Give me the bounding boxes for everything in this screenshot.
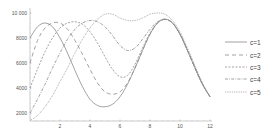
x-tick-label: 2 xyxy=(59,123,62,129)
series-layer xyxy=(30,13,210,121)
series-line-c3 xyxy=(30,19,210,97)
y-tick-label: 8000 xyxy=(16,35,27,41)
x-tick-label: 8 xyxy=(149,123,152,129)
y-ticks: 200040006000800010 000 xyxy=(12,10,32,118)
legend-item-c4: c=4 xyxy=(225,76,261,83)
legend-item-c1: c=1 xyxy=(225,39,261,46)
y-tick-label: 2000 xyxy=(16,110,27,116)
series-line-c5 xyxy=(30,13,210,121)
legend-label: c=1 xyxy=(250,39,261,46)
legend-item-c3: c=3 xyxy=(225,64,261,71)
y-tick-label: 10 000 xyxy=(12,10,28,16)
axes: 24681012 200040006000800010 000 xyxy=(12,8,213,129)
y-tick-label: 6000 xyxy=(16,60,27,66)
x-tick-label: 4 xyxy=(89,123,92,129)
x-tick-label: 12 xyxy=(207,123,213,129)
legend-item-c2: c=2 xyxy=(225,52,261,59)
legend-label: c=3 xyxy=(250,64,261,71)
legend-item-c5: c=5 xyxy=(225,89,261,96)
legend: c=1 c=2 c=3 c=4 c=5 xyxy=(225,39,261,96)
legend-label: c=4 xyxy=(250,76,261,83)
x-tick-label: 6 xyxy=(119,123,122,129)
legend-label: c=5 xyxy=(250,89,261,96)
series-line-c1 xyxy=(30,19,210,107)
y-tick-label: 4000 xyxy=(16,85,27,91)
legend-label: c=2 xyxy=(250,52,261,59)
x-tick-label: 10 xyxy=(177,123,183,129)
line-chart: 24681012 200040006000800010 000 c=1 c=2 … xyxy=(0,0,272,134)
